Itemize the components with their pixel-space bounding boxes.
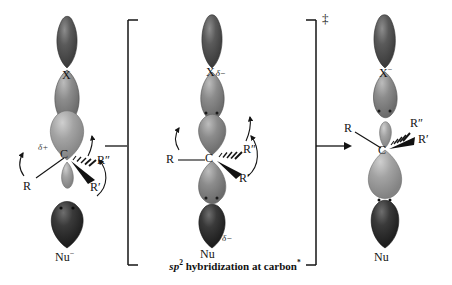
figure-caption: sp2 hybridization at carbon* [150, 258, 320, 272]
left-bracket [128, 20, 138, 265]
caption-sp-prefix: sp [169, 260, 179, 272]
caption-footnote-marker: * [297, 258, 301, 267]
right-bracket [306, 20, 316, 265]
caption-text: hybridization at carbon [183, 260, 297, 272]
reaction-mechanism-figure: X C δ+ R R″ R′ Nu− [0, 0, 452, 285]
double-dagger-marker: ‡ [322, 12, 329, 25]
connectors-layer [0, 0, 452, 285]
reaction-arrow [316, 142, 352, 150]
